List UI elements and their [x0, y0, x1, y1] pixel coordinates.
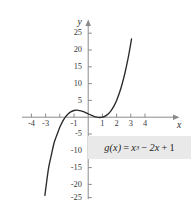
x-tick-label-4: 4	[138, 120, 152, 128]
cubic-function-graph: 25 20 15 10 5 -5 -10 -15 -20 -25 -4 -3 -…	[0, 0, 195, 206]
equation-term3: 1	[170, 142, 175, 153]
x-tick-label-3: 3	[124, 120, 138, 128]
y-tick-label-20: 20	[60, 46, 82, 54]
equation-equals: =	[121, 142, 131, 153]
y-tick-label-minus-25: -25	[58, 194, 82, 202]
x-tick-label-minus-1: -1	[66, 120, 82, 128]
x-tick-label-1: 1	[95, 120, 109, 128]
y-axis-label: y	[78, 17, 82, 27]
x-tick-label-minus-3: -3	[38, 120, 54, 128]
y-tick-label-25: 25	[60, 29, 82, 37]
y-tick-label-minus-20: -20	[58, 181, 82, 189]
y-tick-label-5: 5	[60, 97, 82, 105]
equation-term2: 2x	[150, 142, 160, 153]
equation-lhs: g(x)	[104, 142, 121, 153]
y-axis-arrowhead	[85, 20, 91, 26]
equation-minus-sign: −	[139, 142, 149, 153]
x-tick-label-2: 2	[110, 120, 124, 128]
y-tick-label-10: 10	[60, 80, 82, 88]
equation-label-box: g(x) = x3 − 2x + 1	[88, 136, 191, 159]
equation-text: g(x) = x3 − 2x + 1	[88, 136, 191, 159]
plot-canvas	[0, 0, 195, 206]
y-tick-label-minus-5: -5	[58, 130, 82, 138]
y-tick-label-15: 15	[60, 63, 82, 71]
y-tick-label-minus-10: -10	[58, 147, 82, 155]
x-axis-label: x	[177, 120, 181, 130]
y-tick-label-minus-15: -15	[58, 164, 82, 172]
equation-plus-sign: +	[159, 142, 169, 153]
